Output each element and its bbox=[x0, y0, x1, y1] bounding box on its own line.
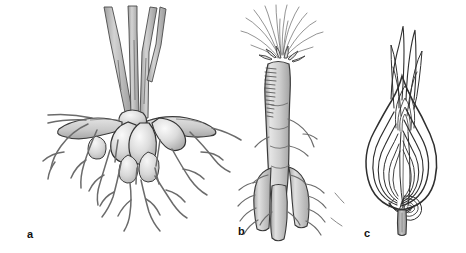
panel-label-a: a bbox=[27, 229, 33, 240]
panel-label-c: c bbox=[364, 228, 370, 239]
root-branch-center bbox=[271, 185, 288, 241]
panel-label-b: b bbox=[238, 226, 245, 237]
botanical-figure bbox=[0, 0, 466, 253]
tuber-small-left bbox=[88, 136, 106, 159]
